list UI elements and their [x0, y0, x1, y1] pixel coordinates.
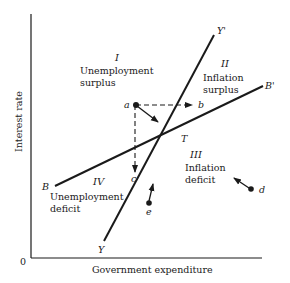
region-iii-numeral: III [189, 149, 203, 160]
axes [31, 14, 262, 258]
point-a-label: a [124, 99, 130, 110]
region-ii-numeral: II [220, 58, 230, 69]
origin-label: 0 [20, 256, 26, 267]
region-iv-numeral: IV [92, 176, 106, 187]
region-iv-line2: deficit [50, 203, 80, 214]
point-d [248, 186, 254, 192]
point-d-group: d [234, 178, 265, 195]
b-end-label: B' [264, 80, 275, 91]
region-ii-line2: surplus [203, 84, 239, 95]
region-iii-line2: deficit [185, 174, 215, 185]
region-i-line1: Unemployment [80, 65, 154, 76]
region-iv: IV Unemployment deficit [50, 176, 124, 214]
region-i-numeral: I [114, 52, 120, 63]
region-i-line2: surplus [80, 77, 116, 88]
policy-mix-diagram: 0 Government expenditure Interest rate Y… [0, 0, 290, 283]
x-axis-title: Government expenditure [92, 264, 213, 275]
region-ii-line1: Inflation [203, 72, 244, 83]
region-i: I Unemployment surplus [80, 52, 154, 88]
arrow-a-to-t [137, 106, 158, 122]
region-iii: III Inflation deficit [185, 149, 226, 185]
point-b-label: b [198, 99, 204, 110]
region-ii: II Inflation surplus [203, 58, 244, 95]
bb-line [55, 86, 263, 186]
point-c-label: c [131, 173, 137, 184]
arrow-e [149, 184, 153, 201]
equilibrium-label: T [181, 133, 188, 144]
region-iv-line1: Unemployment [50, 191, 124, 202]
y-end-label: Y' [217, 25, 226, 36]
point-e [146, 200, 152, 206]
arrow-d [234, 178, 249, 188]
y-start-label: Y [98, 244, 106, 255]
y-axis-title: Interest rate [13, 91, 24, 152]
point-e-label: e [146, 206, 152, 217]
point-e-group: e [146, 184, 153, 217]
b-start-label: B [41, 181, 49, 192]
region-iii-line1: Inflation [185, 162, 226, 173]
point-d-label: d [259, 184, 265, 195]
